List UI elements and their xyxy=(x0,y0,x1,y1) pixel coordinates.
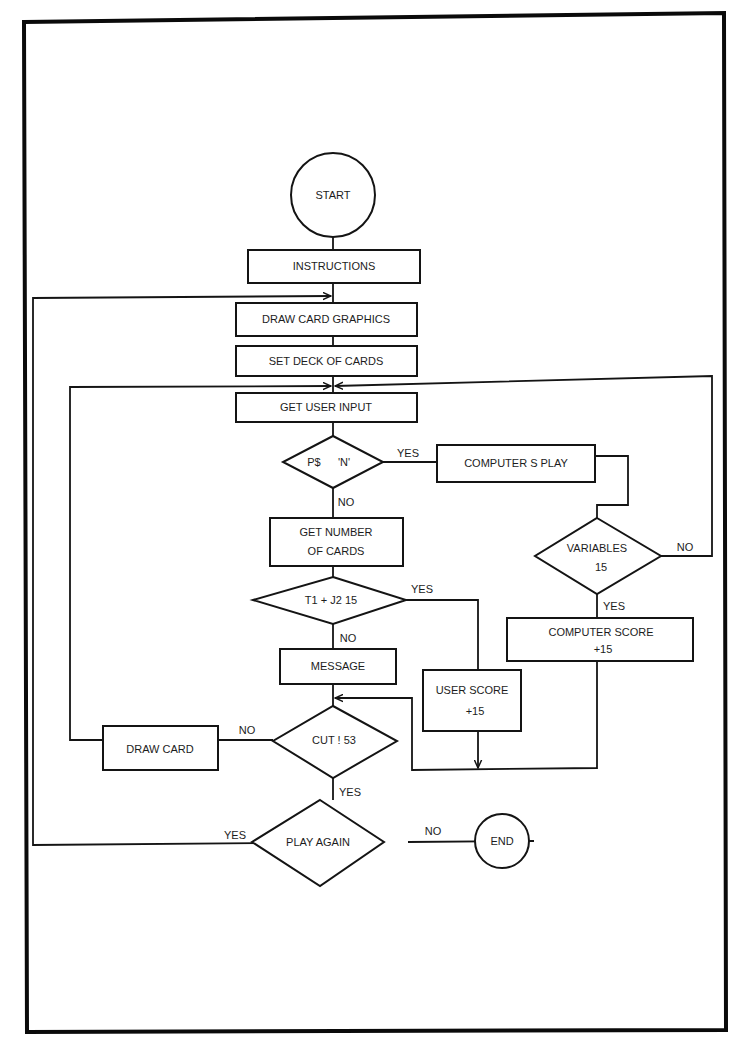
t1-j2-no-label: NO xyxy=(340,632,357,644)
draw-card-box: DRAW CARD xyxy=(103,726,218,770)
draw-card-label: DRAW CARD xyxy=(126,743,193,755)
end-terminal: END xyxy=(475,814,529,868)
play-again-decision-label: PLAY AGAIN xyxy=(286,836,350,848)
play-again-no-label: NO xyxy=(425,825,442,837)
draw-card-graphics-label: DRAW CARD GRAPHICS xyxy=(262,313,390,325)
start-terminal: START xyxy=(291,153,375,237)
variables-no-label: NO xyxy=(677,541,694,553)
play-again-yes-label: YES xyxy=(224,829,246,841)
computers-play-box: COMPUTER S PLAY xyxy=(437,445,595,482)
end-label: END xyxy=(490,835,513,847)
ps-decision-left-label: P$ xyxy=(307,456,320,468)
user-score-line2: +15 xyxy=(466,705,485,717)
message-label: MESSAGE xyxy=(311,660,365,672)
t1-j2-decision-label: T1 + J2 15 xyxy=(305,594,357,606)
get-number-line1: GET NUMBER xyxy=(299,526,372,538)
computer-score-line2: +15 xyxy=(594,643,613,655)
user-score-box: USER SCORE +15 xyxy=(423,670,521,731)
ps-decision-right-label: 'N' xyxy=(338,456,350,468)
instructions-label: INSTRUCTIONS xyxy=(293,260,376,272)
variables-yes-label: YES xyxy=(603,600,625,612)
ps-no-label: NO xyxy=(338,496,355,508)
start-label: START xyxy=(315,189,350,201)
computer-score-box: COMPUTER SCORE +15 xyxy=(507,618,693,661)
cut-decision-label: CUT ! 53 xyxy=(312,734,356,746)
ps-decision-diamond: P$ 'N' xyxy=(283,436,383,488)
play-again-decision-diamond: PLAY AGAIN xyxy=(252,800,384,886)
flowchart-canvas: START INSTRUCTIONS DRAW CARD GRAPHICS SE… xyxy=(0,0,745,1039)
set-deck-label: SET DECK OF CARDS xyxy=(269,355,384,367)
computers-play-label: COMPUTER S PLAY xyxy=(464,457,568,469)
t1-j2-decision-diamond: T1 + J2 15 xyxy=(253,577,406,624)
set-deck-box: SET DECK OF CARDS xyxy=(236,346,417,376)
variables-decision-line2: 15 xyxy=(595,561,607,573)
cut-yes-label: YES xyxy=(339,786,361,798)
get-user-input-label: GET USER INPUT xyxy=(280,401,372,413)
get-user-input-box: GET USER INPUT xyxy=(236,393,417,422)
variables-decision-diamond: VARIABLES 15 xyxy=(535,518,661,594)
message-box: MESSAGE xyxy=(280,649,396,684)
get-number-line2: OF CARDS xyxy=(308,545,365,557)
variables-decision-line1: VARIABLES xyxy=(567,542,627,554)
t1-j2-yes-label: YES xyxy=(411,583,433,595)
computer-score-line1: COMPUTER SCORE xyxy=(548,626,653,638)
user-score-line1: USER SCORE xyxy=(436,684,509,696)
cut-no-label: NO xyxy=(239,724,256,736)
get-number-box: GET NUMBER OF CARDS xyxy=(270,518,403,566)
ps-yes-label: YES xyxy=(397,447,419,459)
cut-decision-diamond: CUT ! 53 xyxy=(273,706,397,778)
draw-card-graphics-box: DRAW CARD GRAPHICS xyxy=(236,303,417,336)
instructions-box: INSTRUCTIONS xyxy=(248,250,420,283)
